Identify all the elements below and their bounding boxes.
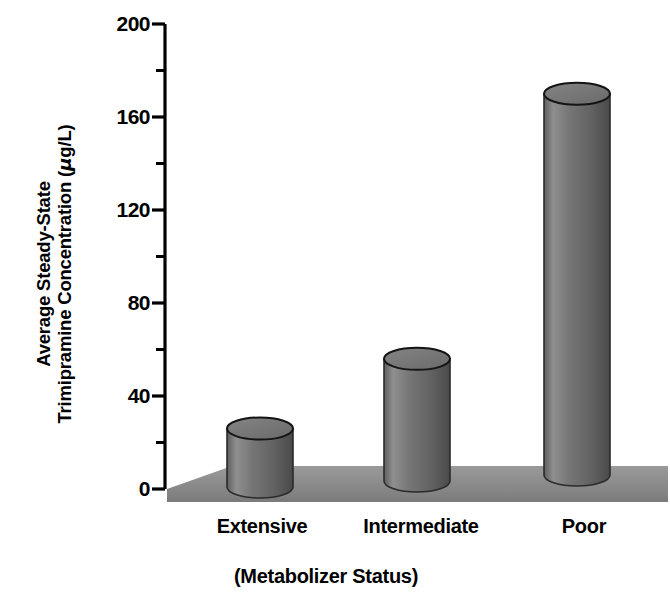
x-axis-title: (Metabolizer Status) [0, 566, 670, 586]
x-category-label: Extensive [217, 516, 308, 536]
x-category-label: Poor [562, 516, 606, 536]
bar-top-ellipse [384, 348, 450, 370]
bar-top-ellipse [544, 83, 610, 105]
bar-cylinder [227, 418, 293, 498]
bar-top-ellipse [227, 418, 293, 440]
bar-body [384, 359, 450, 492]
x-axis-category-labels: ExtensiveIntermediatePoor [0, 516, 670, 546]
bar-cylinder [384, 348, 450, 492]
bar-body [544, 94, 610, 486]
x-category-label: Intermediate [363, 516, 478, 536]
x-axis-title-text: (Metabolizer Status) [234, 566, 418, 586]
bars-group [227, 83, 610, 498]
bar-cylinder [544, 83, 610, 486]
chart-figure: Average Steady-State Trimipramine Concen… [0, 0, 670, 607]
floor-front-edge [167, 498, 668, 502]
